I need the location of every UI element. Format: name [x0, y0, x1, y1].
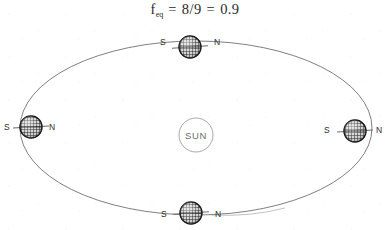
- sun-label: SUN: [185, 130, 207, 141]
- diagram-canvas: feq=8/9=0.9: [0, 0, 390, 230]
- north-pole-label: N: [376, 125, 382, 135]
- sun: SUN: [179, 118, 213, 152]
- paper-texture: [0, 0, 390, 230]
- south-pole-label: S: [4, 122, 10, 132]
- north-pole-label: N: [215, 209, 221, 219]
- north-pole-label: N: [49, 122, 55, 132]
- orbit-diagram: SUN SNSNSNSN: [0, 0, 390, 230]
- south-pole-label: S: [160, 37, 166, 47]
- north-pole-label: N: [214, 37, 220, 47]
- south-pole-label: S: [324, 125, 330, 135]
- south-pole-label: S: [161, 209, 167, 219]
